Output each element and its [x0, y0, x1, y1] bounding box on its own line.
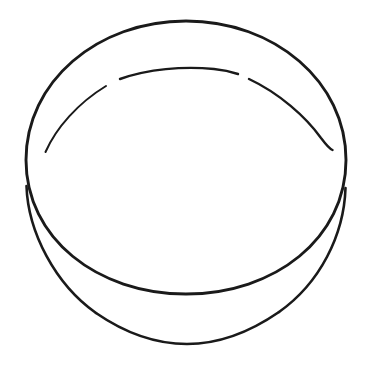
- drawing-canvas: [0, 0, 370, 370]
- canvas-background: [0, 0, 370, 370]
- line-drawing-svg: [0, 0, 370, 370]
